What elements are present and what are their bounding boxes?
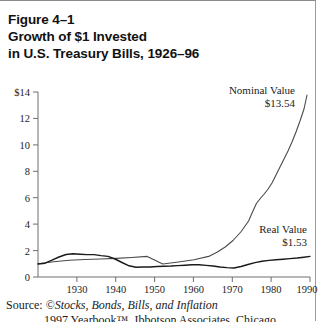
- x-tick-label-1980: 1980: [261, 284, 282, 295]
- annotation-real-value-text: $1.53: [259, 236, 307, 249]
- x-tick-label-1960: 1960: [183, 284, 204, 295]
- chart-svg: [0, 79, 316, 294]
- source-prefix: Source: ©: [6, 298, 55, 312]
- annotation-nominal-value: Nominal Value $13.54: [229, 84, 295, 110]
- x-tick-label-1940: 1940: [105, 284, 126, 295]
- annotation-real-value: Real Value $1.53: [259, 223, 307, 249]
- figure-number: Figure 4–1: [8, 11, 308, 28]
- x-tick-label-1990: 1990: [297, 284, 318, 295]
- y-tick-label-14: $14: [0, 87, 30, 98]
- y-tick-label-6: 6: [0, 192, 30, 203]
- annotation-nominal-value-text: $13.54: [229, 97, 295, 110]
- y-tick-label-10: 10: [0, 139, 30, 150]
- y-tick-label-12: 12: [0, 113, 30, 124]
- y-tick-label-4: 4: [0, 219, 30, 230]
- figure-title-block: Figure 4–1 Growth of $1 Invested in U.S.…: [8, 11, 308, 62]
- x-tick-label-1950: 1950: [144, 284, 165, 295]
- x-tick-label-1930: 1930: [66, 284, 87, 295]
- series-line-real: [38, 254, 310, 268]
- source-italic-title: Stocks, Bonds, Bills, and Inflation: [55, 298, 218, 312]
- source-line-1: Source: ©Stocks, Bonds, Bills, and Infla…: [6, 298, 314, 313]
- source-block: Source: ©Stocks, Bonds, Bills, and Infla…: [6, 298, 314, 322]
- chart-plot-area: $14 12 10 8 6 4 2 0 1930 1940 1950 1960 …: [0, 79, 316, 294]
- y-axis-ticks: [33, 92, 38, 277]
- source-line-2: 1997 Yearbook™, Ibbotson Associates, Chi…: [6, 313, 314, 322]
- annotation-real-label: Real Value: [259, 223, 307, 236]
- figure-container: Figure 4–1 Growth of $1 Invested in U.S.…: [0, 0, 316, 321]
- y-tick-label-0: 0: [0, 272, 30, 283]
- x-axis-ticks: [77, 277, 310, 282]
- y-tick-label-8: 8: [0, 166, 30, 177]
- y-tick-label-2: 2: [0, 245, 30, 256]
- annotation-nominal-label: Nominal Value: [229, 84, 295, 97]
- figure-title-line-2: in U.S. Treasury Bills, 1926–96: [8, 45, 308, 62]
- figure-title-line-1: Growth of $1 Invested: [8, 28, 308, 45]
- x-tick-label-1970: 1970: [222, 284, 243, 295]
